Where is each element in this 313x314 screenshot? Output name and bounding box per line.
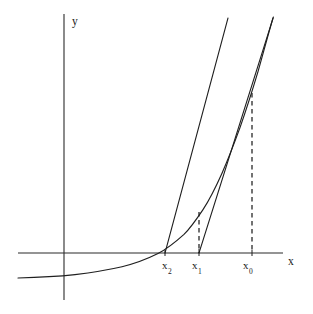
y-axis-label: y <box>72 16 78 28</box>
tick-label-x2: x2 <box>162 260 171 274</box>
function-curve <box>18 18 273 278</box>
newton-method-figure: y x x2 x1 x0 <box>0 0 313 314</box>
x-axis-label: x <box>288 256 294 268</box>
tick-label-x0-base: x <box>243 259 249 271</box>
tick-label-x2-subscript: 2 <box>168 267 172 276</box>
tick-label-x1-base: x <box>192 259 198 271</box>
tangent-line-at-x1 <box>165 18 228 253</box>
tangent-line-at-x0 <box>199 17 273 253</box>
tick-label-x2-base: x <box>162 259 168 271</box>
tick-label-x0-subscript: 0 <box>249 267 253 276</box>
tick-label-x1-subscript: 1 <box>198 267 202 276</box>
tick-label-x1: x1 <box>192 260 201 274</box>
tick-label-x0: x0 <box>243 260 252 274</box>
figure-canvas <box>0 0 313 314</box>
